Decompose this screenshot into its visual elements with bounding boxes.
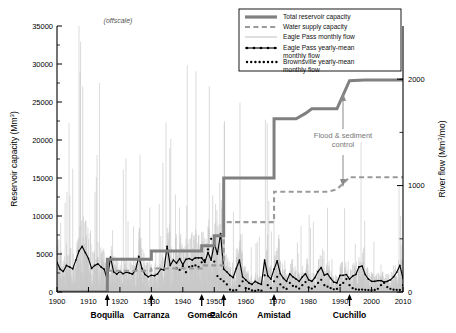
right-tick-label: 2000 [408,75,425,84]
chart-svg: 05000100001500020000250003000035000 0100… [0,0,456,333]
bottom-tick-label: 1980 [300,297,317,306]
bottom-tick-label: 1900 [49,297,66,306]
bottom-tick-label: 2010 [395,297,412,306]
left-tick-label: 35000 [32,22,53,31]
legend-label: Eagle Pass monthly flow [283,33,355,41]
left-tick-label: 15000 [32,174,53,183]
bottom-tick-label: 1990 [332,297,349,306]
left-tick-label: 25000 [32,98,53,107]
offscale-note: (offscale) [104,17,133,25]
annotation-line1: Flood & sediment [314,131,373,140]
dam-label: Cuchillo [333,310,367,320]
dam-labels: BoquillaCarranzaGomezFalcónAmistadCuchil… [91,310,367,320]
bottom-tick-label: 1940 [174,297,191,306]
dam-label: Carranza [133,310,170,320]
legend-label: Brownsville yearly-mean [283,58,355,66]
dam-label: Boquilla [91,310,125,320]
figure-root: 05000100001500020000250003000035000 0100… [0,0,456,333]
right-tick-label: 0 [408,288,412,297]
left-axis-title: Reservoir capacity (Mm3) [9,111,19,207]
bottom-tick-label: 1950 [206,297,223,306]
bottom-tick-label: 1970 [269,297,286,306]
legend-label: monthly flow [283,66,320,74]
legend-label: Eagle Pass yearly-mean [283,44,355,52]
legend: Total reservoir capacityWater supply cap… [239,9,401,74]
left-tick-label: 10000 [32,212,53,221]
left-tick-label: 20000 [32,136,53,145]
bottom-tick-label: 1910 [80,297,97,306]
dam-label: Falcón [210,310,237,320]
legend-label: Total reservoir capacity [283,13,351,21]
bottom-tick-label: 1920 [112,297,129,306]
bottom-tick-label: 2000 [363,297,380,306]
dam-label: Amistad [257,310,291,320]
left-tick-label: 30000 [32,60,53,69]
annotation-line2: control [332,140,355,149]
left-tick-label: 0 [49,288,53,297]
right-axis-title: River flow (Mm3/mo) [437,120,447,197]
right-tick-label: 1000 [408,181,425,190]
bottom-tick-label: 1960 [237,297,254,306]
legend-label: Water supply capacity [283,23,348,31]
left-tick-label: 5000 [36,250,53,259]
